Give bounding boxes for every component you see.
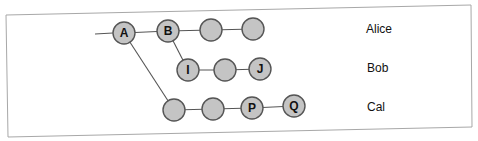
diagram-frame: [6, 5, 472, 137]
node-label: B: [164, 24, 173, 38]
node-alice3: [200, 19, 222, 41]
row-label-cal: Cal: [367, 100, 385, 114]
edge-A-cal1: [124, 33, 174, 110]
node-A: A: [113, 22, 135, 44]
row-label-alice: Alice: [366, 22, 392, 36]
node-Q: Q: [283, 95, 305, 117]
edge-start-A: [95, 33, 113, 34]
node-label: J: [257, 62, 264, 76]
node-alice4: [242, 18, 264, 40]
row-label-bob: Bob: [367, 61, 389, 75]
node-B: B: [157, 20, 179, 42]
node-label: I: [186, 63, 189, 77]
node-bob2: [214, 59, 236, 81]
node-label: A: [120, 26, 129, 40]
node-cal2: [202, 98, 224, 120]
node-label: P: [248, 101, 256, 115]
node-label: Q: [289, 99, 298, 113]
node-J: J: [249, 58, 271, 80]
node-I: I: [177, 59, 199, 81]
commit-graph-diagram: A B I J P Q Alice Bob Cal: [0, 0, 478, 141]
node-cal1: [163, 99, 185, 121]
node-P: P: [241, 97, 263, 119]
